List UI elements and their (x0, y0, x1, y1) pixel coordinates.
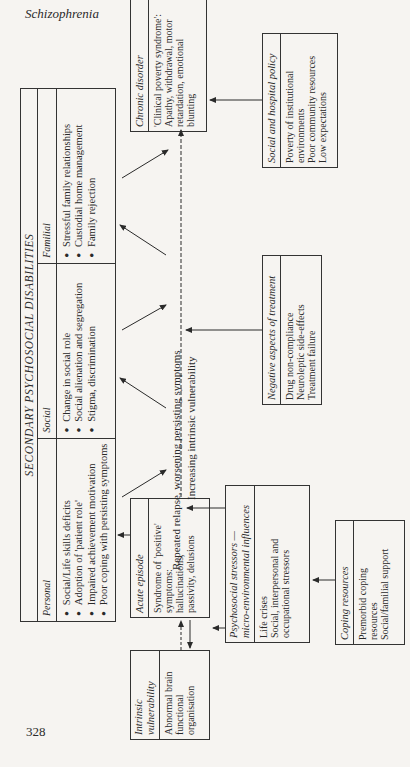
flow-arrows (0, 0, 410, 767)
